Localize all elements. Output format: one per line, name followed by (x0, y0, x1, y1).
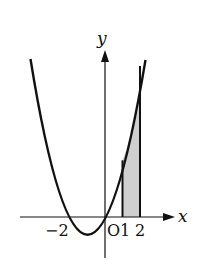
shaded-area-fill (123, 66, 141, 217)
tick-label-1: 1 (120, 221, 130, 240)
tick-label-minus-2: −2 (45, 221, 69, 240)
origin-label: O (107, 221, 120, 240)
x-axis-label: x (178, 206, 188, 226)
tick-label-2: 2 (135, 221, 145, 240)
x-axis-arrow-icon (163, 213, 175, 221)
y-axis-arrow-icon (101, 50, 109, 62)
y-axis-label: y (96, 28, 107, 48)
parabola-diagram: y x −2 O 1 2 (0, 0, 204, 269)
